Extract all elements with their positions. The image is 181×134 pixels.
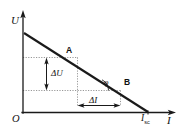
point-a-label: A — [66, 46, 72, 55]
characteristic-line — [24, 33, 148, 112]
delta-u-label: ΔU — [51, 69, 63, 78]
angle-phi-label: φ — [104, 79, 108, 87]
isc-subscript: sc — [144, 119, 150, 125]
figure-container: U I O A B ΔU ΔI φ Isc — [0, 0, 181, 134]
figure-canvas — [0, 0, 181, 134]
delta-i-label: ΔI — [89, 96, 97, 105]
voltage-axis-label: U — [11, 15, 19, 26]
short-circuit-current-label: Isc — [141, 114, 150, 125]
point-b-label: B — [124, 78, 130, 87]
current-axis-label: I — [167, 115, 171, 126]
origin-label: O — [12, 114, 20, 125]
